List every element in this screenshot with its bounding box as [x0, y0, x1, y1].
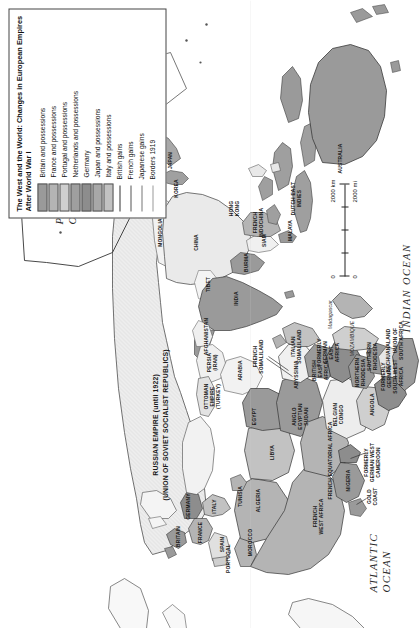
map-label-tunisia: TUNISIA	[237, 486, 243, 507]
map-sheet: ATLANTIC OCEAN INDIAN OCEAN PACIFIC OCEA…	[0, 0, 419, 628]
legend-entry-label: Italy and possessions	[105, 114, 112, 177]
map-label-india: INDIA	[233, 291, 239, 305]
map-label-formerly-german-west-cameroon: FORMERLY GERMAN WEST CAMEROON	[363, 442, 381, 481]
map-label-mozambique: MOZAMBIQUE	[349, 320, 355, 355]
map-label-algeria: ALGERIA	[255, 488, 261, 511]
map-label-formerly-german-south-west-africa: FORMERLY GERMAN SOUTH WEST AFRICA	[380, 359, 404, 394]
legend-entry-label: Britain and possessions	[39, 107, 46, 177]
map-label-china: CHINA	[193, 234, 199, 251]
map-label-dutch-east-indies: DUTCH EAST INDIES	[290, 181, 302, 215]
legend-entry-label: France and possessions	[50, 106, 57, 177]
legend-entry-label: French gains	[127, 141, 134, 179]
legend-entry: Netherlands and possessions	[71, 15, 81, 211]
map-screenshot: ATLANTIC OCEAN INDIAN OCEAN PACIFIC OCEA…	[0, 0, 419, 628]
map-label-french-somaliland: FRENCH SOMALILAND	[252, 339, 264, 374]
legend-swatch	[92, 183, 102, 211]
russian-empire-line-1: RUSSIAN EMPIRE (until 1922)	[150, 349, 160, 500]
scale-km-label: 2000 km	[329, 179, 335, 202]
map-label-southern-rhodesia: SOUTHERN RHODESIA	[366, 341, 378, 370]
legend-entry: Japan and possessions	[93, 15, 103, 211]
map-label-madagascar: Madagascar	[327, 300, 333, 329]
legend-entry: France and possessions	[49, 15, 59, 211]
legend-entry-label: Japanese gains	[138, 133, 145, 179]
map-label-korea: KOREA	[173, 179, 179, 198]
map-label-germany: GERMANY	[185, 493, 191, 519]
map-label-afghanistan: AFGHANISTAN	[203, 317, 209, 354]
map-label-spain: SPAIN	[219, 536, 225, 552]
map-label-northern-rhodesia: NORTHERN RHODESIA	[354, 357, 366, 386]
legend-entry-label: Japan and possessions	[94, 108, 101, 177]
legend-line-sample	[115, 185, 123, 211]
map-label-italian-somaliland: ITALIAN SOMALILAND	[290, 329, 302, 364]
map-label-france: FRANCE	[197, 521, 203, 543]
legend-line-sample	[126, 185, 134, 211]
legend-entry-label: Portugal and possessions	[61, 101, 68, 177]
map-label-ottoman-empire-turkey: OTTOMAN EMPIRE (TURKEY)	[203, 383, 221, 409]
map-label-abyssinia: ABYSSINIA	[293, 360, 299, 388]
map-label-formerly-german-east-africa: FORMERLY GERMAN EAST AFRICA	[316, 338, 340, 367]
legend-swatch	[48, 183, 58, 211]
map-label-britain: BRITAIN	[175, 526, 181, 547]
map-label-mongolia: MONGOLIA	[157, 218, 163, 247]
map-label-french-west-africa: FRENCH WEST AFRICA	[312, 498, 324, 534]
map-label-arabia: ARABIA	[237, 360, 243, 380]
map-label-hong-kong: HONG KONG	[228, 200, 240, 215]
legend-entry-label: Borders 1919	[149, 139, 156, 179]
atlantic-line-1: ATLANTIC	[366, 533, 379, 592]
russian-empire-line-2: (UNION OF SOVIET SOCIALIST REPUBLICS)	[160, 349, 170, 500]
legend-swatch	[70, 183, 80, 211]
legend-line-sample	[137, 185, 145, 211]
legend-swatch	[103, 183, 113, 211]
legend-title: The West and the World: Changes in Europ…	[14, 15, 33, 211]
map-label-malaya: MALAYA	[287, 219, 293, 240]
legend-entry: Japanese gains	[137, 15, 147, 211]
map-label-anglo-egyptian-sudan: ANGLO EGYPTIAN SUDAN	[291, 403, 309, 430]
map-label-gold-coast: GOLD COAST	[366, 487, 378, 505]
legend-line-sample	[148, 185, 156, 211]
map-label-angola: ANGOLA	[369, 393, 375, 415]
map-legend: The West and the World: Changes in Europ…	[8, 8, 166, 218]
map-label-morocco: MOROCCO	[247, 528, 253, 555]
map-label-egypt: EGYPT	[251, 407, 257, 425]
legend-entry: Borders 1919	[148, 15, 158, 211]
legend-entry-label: Germany	[83, 150, 90, 177]
legend-swatch	[59, 183, 69, 211]
map-label-belgian-congo: BELGIAN CONGO	[332, 402, 344, 425]
map-label-libya: LIBYA	[269, 444, 275, 459]
scale-mi-label: 2000 mi	[351, 181, 357, 202]
scale-bar: 0 0 2000 km 2000 mi	[330, 180, 364, 276]
map-label-french-indochina: FRENCH INDOCHINA	[252, 207, 264, 237]
map-label-french-equatorial-africa: FRENCH EQUATORIAL AFRICA	[327, 421, 333, 499]
atlantic-line-2: OCEAN	[379, 533, 392, 592]
annotation-russian-empire: RUSSIAN EMPIRE (until 1922) (UNION OF SO…	[150, 349, 170, 500]
scale-zero-mi: 0	[351, 275, 357, 278]
legend-entry: Britain and possessions	[38, 15, 48, 211]
legend-entry: British gains	[115, 15, 125, 211]
map-label-australia: AUSTRALIA	[337, 143, 343, 173]
ocean-label-indian: INDIAN OCEAN	[400, 243, 411, 332]
legend-entry-list: Britain and possessionsFrance and posses…	[38, 15, 158, 211]
legend-entry: Italy and possessions	[104, 15, 114, 211]
map-label-union-of-south-africa: UNION OF SOUTH AFRICA	[392, 320, 404, 359]
legend-entry: French gains	[126, 15, 136, 211]
legend-entry-label: British gains	[116, 143, 123, 179]
map-label-portugal: PORTUGAL	[225, 543, 231, 572]
scale-zero-km: 0	[329, 275, 335, 278]
map-label-italy: ITALY	[211, 499, 217, 513]
ocean-label-atlantic: ATLANTIC OCEAN	[366, 533, 391, 592]
map-label-tibet: TIBET	[205, 276, 211, 291]
map-label-burma: BURMA	[243, 252, 249, 271]
legend-swatch	[37, 183, 47, 211]
legend-entry: Germany	[82, 15, 92, 211]
map-label-nigeria: NIGERIA	[345, 469, 351, 491]
legend-entry-label: Netherlands and possessions	[72, 90, 79, 177]
legend-swatch	[81, 183, 91, 211]
map-label-japan: JAPAN	[167, 151, 173, 168]
legend-entry: Portugal and possessions	[60, 15, 70, 211]
